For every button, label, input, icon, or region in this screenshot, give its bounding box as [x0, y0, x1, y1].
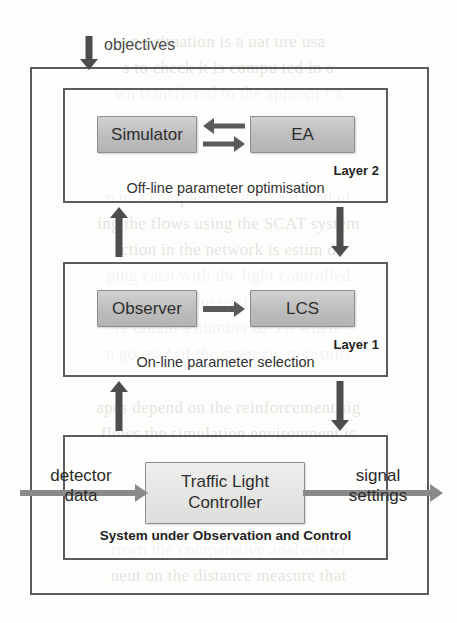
detector-data-label: detector data [33, 466, 129, 506]
simulator-box[interactable]: Simulator [97, 116, 197, 153]
simulator-to-ea-arrow-right-icon [203, 137, 245, 150]
signal-settings-line2: settings [330, 486, 426, 506]
layer1-to-system-arrow-down-icon [331, 381, 349, 431]
simulator-label: Simulator [111, 125, 183, 145]
architecture-figure: a t situation is a uat ure usa s to chec… [0, 0, 457, 623]
lcs-label: LCS [286, 299, 319, 319]
system-to-layer1-arrow-up-icon [110, 381, 128, 431]
ea-label: EA [291, 125, 314, 145]
detector-data-line1: detector [33, 466, 129, 486]
layer2-to-layer1-arrow-down-icon [331, 207, 349, 257]
layer-1-description: On-line parameter selection [63, 354, 388, 370]
traffic-light-controller-box[interactable]: Traffic Light Controller [145, 462, 305, 524]
ghost-line: a t situation is a uat ure usa [0, 32, 457, 53]
objectives-label: objectives [104, 36, 175, 54]
layer-2-tag: Layer 2 [63, 163, 379, 178]
traffic-light-controller-line1: Traffic Light [181, 472, 269, 493]
lcs-box[interactable]: LCS [250, 290, 355, 327]
layer1-to-layer2-arrow-up-icon [110, 207, 128, 257]
detector-data-line2: data [33, 486, 129, 506]
signal-settings-label: signal settings [330, 466, 426, 506]
objectives-arrow-down-icon [80, 36, 98, 70]
signal-settings-line1: signal [330, 466, 426, 486]
ea-box[interactable]: EA [250, 116, 355, 153]
layer-2-description: Off-line parameter optimisation [63, 180, 388, 196]
layer-1-tag: Layer 1 [63, 337, 379, 352]
observer-label: Observer [112, 299, 182, 319]
system-caption: System under Observation and Control [63, 528, 388, 543]
ea-to-simulator-arrow-left-icon [203, 119, 245, 132]
traffic-light-controller-line2: Controller [188, 493, 262, 514]
observer-to-lcs-arrow-right-icon [203, 301, 245, 316]
observer-box[interactable]: Observer [97, 290, 197, 327]
